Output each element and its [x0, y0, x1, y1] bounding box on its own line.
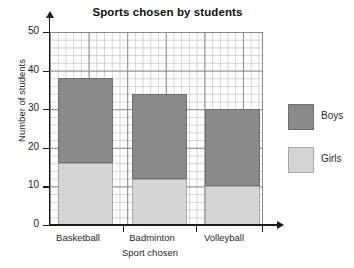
x-category-label-basketball: Basketball: [48, 232, 108, 243]
x-category-label-badminton: Badminton: [122, 232, 182, 243]
legend-swatch-girls-icon: [288, 147, 314, 173]
y-tick-label-50: 50: [28, 25, 39, 36]
legend-swatch-boys-icon: [288, 104, 314, 130]
y-axis-line: [49, 17, 50, 226]
y-tick-label-0: 0: [33, 218, 39, 229]
x-axis-line: [49, 224, 278, 225]
bar-badminton: [132, 94, 187, 225]
x-tick-separator-1: [123, 226, 124, 232]
y-tick-label-20: 20: [28, 141, 39, 152]
y-tick-30: 30: [43, 109, 50, 110]
bar-segment-girls-volleyball: [205, 186, 260, 225]
x-tick-separator-3: [262, 226, 263, 232]
plot-area: [50, 32, 263, 225]
bar-basketball: [58, 78, 113, 225]
bar-segment-boys-badminton: [132, 94, 187, 179]
grid-right-edge: [262, 32, 263, 225]
y-tick-label-40: 40: [28, 64, 39, 75]
x-category-label-volleyball: Volleyball: [194, 232, 254, 243]
y-tick-10: 10: [43, 186, 50, 187]
bar-segment-girls-basketball: [58, 163, 113, 225]
chart-title: Sports chosen by students: [60, 6, 275, 18]
bar-volleyball: [205, 109, 260, 225]
x-axis-arrow: [277, 221, 284, 229]
legend-label-girls: Girls: [321, 153, 342, 164]
y-tick-label-10: 10: [28, 179, 39, 190]
x-tick-separator-2: [196, 226, 197, 232]
y-axis-title: Number of students: [16, 31, 27, 171]
x-axis-title: Sport chosen: [40, 247, 260, 258]
bar-segment-girls-badminton: [132, 179, 187, 225]
bar-chart-figure: Sports chosen by students Number of stud…: [0, 0, 354, 268]
y-tick-label-30: 30: [28, 102, 39, 113]
y-axis-arrow: [46, 11, 54, 18]
legend-label-boys: Boys: [321, 110, 343, 121]
bar-segment-boys-volleyball: [205, 109, 260, 186]
bar-segment-boys-basketball: [58, 78, 113, 163]
y-tick-0: 0: [43, 225, 50, 226]
y-tick-50: 50: [43, 32, 50, 33]
y-tick-40: 40: [43, 71, 50, 72]
y-tick-20: 20: [43, 148, 50, 149]
